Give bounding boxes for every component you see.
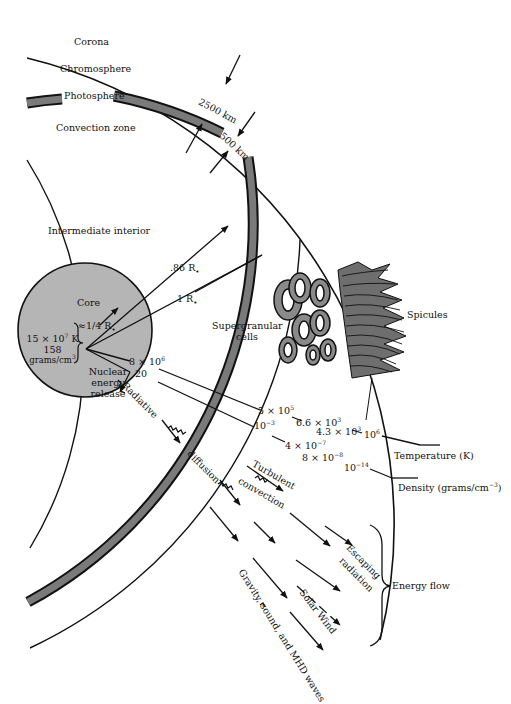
density-photosphere: 4 × 10−7 xyxy=(285,440,326,451)
label-intermediate-interior: Intermediate interior xyxy=(48,225,150,236)
label-photosphere: Photosphere xyxy=(64,90,125,101)
core-conditions: 15 × 107 K 158 grams/cm3 xyxy=(25,333,80,366)
label-radius-core: ≈1/4 R• xyxy=(78,320,116,336)
label-spicules: Spicules xyxy=(407,309,448,320)
label-radius-convection-base: .86 R• xyxy=(170,262,199,278)
label-core: Core xyxy=(77,297,100,308)
label-corona: Corona xyxy=(74,36,109,47)
temp-convection-base: 5 × 105 xyxy=(258,405,294,416)
spicules xyxy=(338,262,406,420)
label-convection-zone: Convection zone xyxy=(56,122,136,133)
density-chromosphere: 8 × 10−8 xyxy=(302,452,343,463)
supergranular-cells xyxy=(274,273,336,365)
temp-chromosphere: 4.3 × 103 xyxy=(316,426,361,437)
label-supergranular-cells: Supergranular cells xyxy=(212,320,282,342)
label-energy-flow: Energy flow xyxy=(392,580,450,591)
core-temperature: 15 × 107 K xyxy=(25,333,80,344)
label-temperature: Temperature (K) xyxy=(394,450,474,461)
density-core-edge: 20 xyxy=(135,368,147,379)
label-chromosphere: Chromosphere xyxy=(60,63,131,74)
density-convection-base: 10−3 xyxy=(254,420,275,431)
label-radius-surface: 1 R• xyxy=(177,293,197,309)
core-density-unit: grams/cm3 xyxy=(25,355,80,366)
density-corona: 10−14 xyxy=(344,462,369,473)
label-density: Density (grams/cm−3) xyxy=(398,482,501,493)
temp-corona: 106 xyxy=(364,429,380,440)
temp-core-edge: 8 × 106 xyxy=(129,356,165,367)
